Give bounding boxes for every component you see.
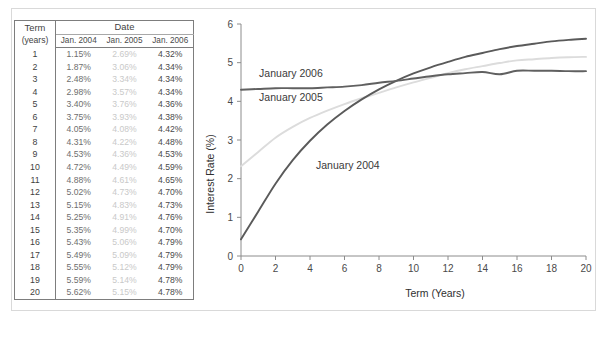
table-cell-v2004: 1.15%: [56, 48, 102, 61]
table-cell-v2006: 4.70%: [148, 186, 194, 199]
x-tick-label-8: 8: [376, 263, 382, 274]
table-cell-term: 13: [15, 199, 56, 212]
table-cell-v2004: 3.40%: [56, 98, 102, 111]
y-tick-label-1: 1: [227, 212, 233, 223]
table-cell-v2006: 4.36%: [148, 98, 194, 111]
table-cell-v2004: 5.59%: [56, 274, 102, 287]
table-cell-v2004: 4.53%: [56, 148, 102, 161]
table-cell-v2004: 5.15%: [56, 199, 102, 212]
table-body: 11.15%2.69%4.32%21.87%3.06%4.34%32.48%3.…: [15, 48, 194, 300]
table-cell-term: 17: [15, 249, 56, 262]
table-cell-v2006: 4.59%: [148, 161, 194, 174]
table-cell-v2006: 4.53%: [148, 148, 194, 161]
table-cell-term: 10: [15, 161, 56, 174]
table-cell-v2004: 4.72%: [56, 161, 102, 174]
table-cell-v2005: 3.06%: [102, 61, 148, 74]
table-cell-v2005: 5.14%: [102, 274, 148, 287]
table-cell-term: 8: [15, 136, 56, 149]
table-cell-v2005: 4.36%: [102, 148, 148, 161]
column-header-jan-2004: Jan. 2004: [56, 34, 102, 48]
table-cell-term: 1: [15, 48, 56, 61]
x-tick-label-0: 0: [238, 263, 244, 274]
table-cell-v2004: 5.62%: [56, 286, 102, 299]
table-row: 84.31%4.22%4.48%: [15, 136, 194, 149]
table-cell-v2005: 4.49%: [102, 161, 148, 174]
table-cell-term: 4: [15, 86, 56, 99]
x-tick-label-12: 12: [442, 263, 454, 274]
yield-curve-chart: 0123456 02468101214161820 January 2004Ja…: [200, 14, 592, 304]
table-cell-v2005: 4.83%: [102, 199, 148, 212]
table-cell-term: 20: [15, 286, 56, 299]
table-cell-v2005: 5.06%: [102, 236, 148, 249]
table-row: 74.05%4.08%4.42%: [15, 123, 194, 136]
x-tick-label-16: 16: [511, 263, 523, 274]
column-header-date-group: Date: [56, 21, 194, 35]
table-cell-term: 9: [15, 148, 56, 161]
y-tick-label-0: 0: [227, 251, 233, 262]
table-cell-term: 11: [15, 174, 56, 187]
x-tick-label-20: 20: [580, 263, 592, 274]
table-cell-v2004: 5.25%: [56, 211, 102, 224]
table-cell-term: 18: [15, 261, 56, 274]
column-header-jan-2005: Jan. 2005: [102, 34, 148, 48]
table-row: 185.55%5.12%4.79%: [15, 261, 194, 274]
table-cell-v2006: 4.79%: [148, 236, 194, 249]
table-cell-v2004: 4.05%: [56, 123, 102, 136]
table-cell-v2006: 4.48%: [148, 136, 194, 149]
table-cell-v2006: 4.38%: [148, 111, 194, 124]
y-tick-label-6: 6: [227, 19, 233, 30]
table-cell-v2005: 4.91%: [102, 211, 148, 224]
table-row: 53.40%3.76%4.36%: [15, 98, 194, 111]
table-cell-v2005: 4.61%: [102, 174, 148, 187]
table-cell-term: 5: [15, 98, 56, 111]
table-cell-v2004: 5.43%: [56, 236, 102, 249]
table-cell-v2005: 4.73%: [102, 186, 148, 199]
table-row: 155.35%4.99%4.70%: [15, 224, 194, 237]
table-cell-v2004: 4.31%: [56, 136, 102, 149]
table-cell-term: 6: [15, 111, 56, 124]
table-cell-v2006: 4.32%: [148, 48, 194, 61]
table-cell-term: 2: [15, 61, 56, 74]
series-label-january-2005: January 2005: [259, 91, 323, 103]
table-header-row-group: Term (years) Date: [15, 21, 194, 35]
table-head: Term (years) Date Jan. 2004 Jan. 2005 Ja…: [15, 21, 194, 48]
table-cell-v2005: 4.99%: [102, 224, 148, 237]
table-cell-v2005: 3.76%: [102, 98, 148, 111]
table-cell-term: 14: [15, 211, 56, 224]
figure-root: Term (years) Date Jan. 2004 Jan. 2005 Ja…: [0, 0, 609, 338]
y-tick-label-4: 4: [227, 96, 233, 107]
y-tick-label-2: 2: [227, 173, 233, 184]
table-cell-v2006: 4.65%: [148, 174, 194, 187]
x-tick-label-2: 2: [273, 263, 279, 274]
y-tick-label-5: 5: [227, 57, 233, 68]
table-row: 32.48%3.34%4.34%: [15, 73, 194, 86]
table-cell-v2004: 1.87%: [56, 61, 102, 74]
table-row: 104.72%4.49%4.59%: [15, 161, 194, 174]
table-cell-v2005: 5.15%: [102, 286, 148, 299]
table-cell-term: 16: [15, 236, 56, 249]
x-axis-title: Term (Years): [405, 287, 465, 299]
column-header-term: Term (years): [15, 21, 56, 48]
chart-svg: 0123456 02468101214161820 January 2004Ja…: [200, 14, 592, 304]
series-label-january-2006: January 2006: [259, 67, 323, 79]
table-cell-v2006: 4.42%: [148, 123, 194, 136]
table-cell-v2004: 3.75%: [56, 111, 102, 124]
table-cell-v2004: 2.98%: [56, 86, 102, 99]
table-cell-v2006: 4.79%: [148, 249, 194, 262]
table-cell-v2004: 4.88%: [56, 174, 102, 187]
table-cell-v2005: 3.57%: [102, 86, 148, 99]
table-row: 145.25%4.91%4.76%: [15, 211, 194, 224]
table-cell-v2006: 4.79%: [148, 261, 194, 274]
table-cell-v2005: 4.08%: [102, 123, 148, 136]
table-cell-term: 12: [15, 186, 56, 199]
x-tick-label-18: 18: [546, 263, 558, 274]
table-cell-v2005: 4.22%: [102, 136, 148, 149]
table-row: 165.43%5.06%4.79%: [15, 236, 194, 249]
x-axis: 02468101214161820: [238, 256, 592, 274]
table-cell-v2006: 4.34%: [148, 61, 194, 74]
table-row: 11.15%2.69%4.32%: [15, 48, 194, 61]
table-cell-term: 3: [15, 73, 56, 86]
y-axis-title: Interest Rate (%): [204, 134, 216, 213]
chart-series-labels: January 2004January 2005January 2006: [259, 67, 380, 171]
table-cell-v2005: 3.34%: [102, 73, 148, 86]
